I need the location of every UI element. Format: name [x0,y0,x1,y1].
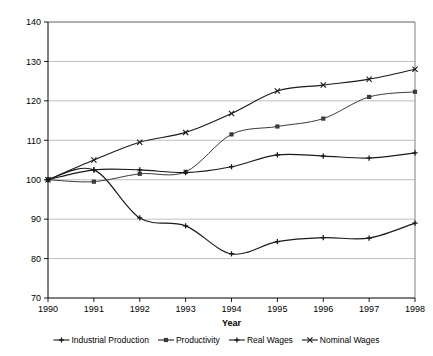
series-1-pt-7-marker-square [367,95,371,99]
y-tick-label-90: 90 [31,214,41,224]
series-line-3 [48,69,415,179]
legend-label-1: Productivity [176,335,221,345]
x-tick-label-1997: 1997 [359,304,379,314]
y-tick-label-110: 110 [27,136,41,146]
chart-legend: Industrial ProductionProductivityReal Wa… [53,335,379,345]
chart-svg: 7080901001101201301401990199119921993199… [0,0,433,356]
legend-label-0: Industrial Production [71,335,149,345]
x-tick-label-1992: 1992 [130,304,150,314]
x-axis-title: Year [222,318,242,328]
series-line-0 [48,168,415,254]
legend-item-real-wages[interactable]: Real Wages [229,335,293,345]
legend-label-2: Real Wages [247,335,293,345]
x-tick-label-1996: 1996 [313,304,333,314]
x-tick-label-1995: 1995 [267,304,287,314]
y-tick-label-140: 140 [26,17,41,27]
y-tick-label-100: 100 [26,175,41,185]
series-real-wages [45,150,417,182]
x-tick-label-1990: 1990 [38,304,58,314]
legend-item-productivity[interactable]: Productivity [158,335,221,345]
y-tick-label-130: 130 [26,57,41,67]
series-1-pt-6-marker-square [321,117,325,121]
series-1-pt-1-marker-square [92,180,96,184]
series-1-pt-8-marker-square [413,90,417,94]
legend-label-3: Nominal Wages [320,335,380,345]
x-tick-label-1993: 1993 [176,304,196,314]
legend-item-industrial-production[interactable]: Industrial Production [53,335,149,345]
plot-area: 7080901001101201301401990199119921993199… [0,0,433,356]
x-tick-label-1998: 1998 [405,304,425,314]
series-1-pt-4-marker-square [229,132,233,136]
y-tick-label-70: 70 [31,293,41,303]
series-1-pt-5-marker-square [275,124,279,128]
legend-1-marker-square [164,338,168,342]
line-chart: 7080901001101201301401990199119921993199… [0,0,433,356]
y-tick-label-120: 120 [26,96,41,106]
y-tick-label-80: 80 [31,254,41,264]
x-tick-label-1991: 1991 [84,304,104,314]
x-tick-label-1994: 1994 [221,304,241,314]
legend-item-nominal-wages[interactable]: Nominal Wages [302,335,380,345]
